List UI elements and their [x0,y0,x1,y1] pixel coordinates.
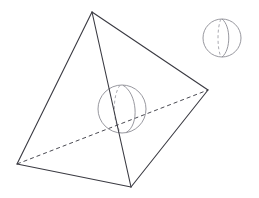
tetrahedron-hidden-edges [17,90,208,164]
geometry-figure-canvas [0,0,259,198]
detached-sphere-hidden-meridian [218,19,221,57]
detached-sphere-solid-meridian [222,19,229,57]
inscribed-sphere-solid-meridian [123,85,135,132]
inscribed-sphere-outline [98,85,146,133]
inscribed-sphere [98,85,146,133]
edge-apex-right [92,12,208,90]
edge-apex-left [17,12,92,164]
geometry-diagram [0,0,259,198]
detached-sphere-outline [203,19,241,57]
edge-left-right-hidden [17,90,208,164]
detached-sphere [203,19,241,57]
edge-left-bottom [17,164,131,187]
edge-apex-bottom [92,12,131,187]
tetrahedron-visible-edges [17,12,208,187]
